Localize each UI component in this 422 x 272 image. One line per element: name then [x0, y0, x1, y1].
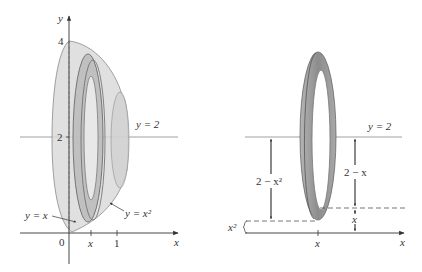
- x-tick-1: 1: [114, 237, 120, 249]
- right-figure: y = 2 x x 2 − x² 2 − x x x²: [227, 52, 406, 249]
- origin-label: 0: [59, 236, 65, 248]
- dim-inner-offset: x: [351, 213, 357, 225]
- x-axis-label: x: [173, 236, 179, 248]
- dim-outer-gap: 2 − x²: [256, 175, 283, 187]
- washer-hole: [84, 76, 98, 200]
- ring-hole: [312, 70, 330, 210]
- x-axis-label-right: x: [399, 236, 405, 248]
- label-y-equals-x: y = x: [24, 209, 48, 221]
- dim-outer-offset: x²: [227, 221, 237, 233]
- y2-label-left: y = 2: [135, 118, 160, 130]
- x-tick-x: x: [87, 237, 93, 249]
- washer-method-diagram: y 4 2 x 0 x 1 y = 2 y = x y = x² y = 2 x…: [0, 0, 422, 272]
- label-y-equals-x-squared: y = x²: [124, 207, 152, 219]
- y2-label-right: y = 2: [367, 120, 392, 132]
- dim-inner-gap: 2 − x: [344, 166, 367, 178]
- solid-cap: [111, 92, 129, 188]
- y-tick-4: 4: [58, 35, 64, 47]
- y-tick-2: 2: [57, 131, 63, 143]
- x-tick-x-right: x: [314, 237, 320, 249]
- y-axis-label: y: [57, 12, 63, 24]
- left-figure: y 4 2 x 0 x 1 y = 2 y = x y = x²: [20, 12, 179, 264]
